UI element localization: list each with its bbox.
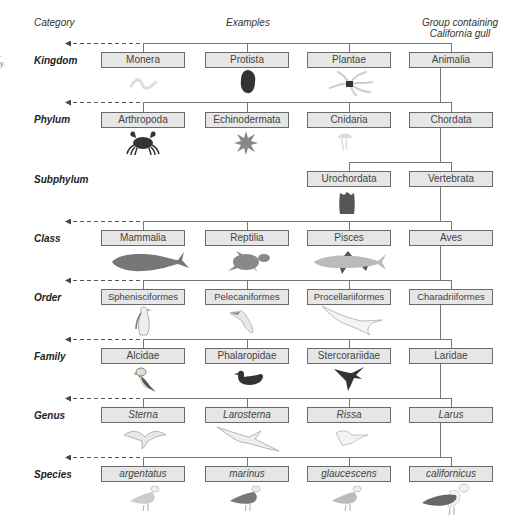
- california-gull-icon: [420, 481, 474, 517]
- skua-icon: [332, 363, 366, 393]
- starfish-icon: [233, 130, 259, 156]
- rank-subphylum: Subphylum: [34, 174, 88, 185]
- plant-icon: [326, 68, 376, 96]
- whale-icon: [110, 248, 190, 274]
- taxon-box-charadriiformes: Charadriiformes: [409, 289, 493, 305]
- taxon-box-laridae: Laridae: [409, 348, 493, 364]
- rank-class: Class: [34, 233, 61, 244]
- taxon-box-mammalia: Mammalia: [101, 230, 185, 246]
- black-backed-gull-icon: [228, 483, 264, 513]
- rank-genus: Genus: [34, 410, 65, 421]
- glaucous-winged-gull-icon: [330, 483, 364, 513]
- taxon-box-sphenisciformes: Sphenisciformes: [101, 289, 185, 305]
- protist-icon: [238, 68, 258, 96]
- pelican-icon: [226, 305, 262, 335]
- taxon-box-larosterna: Larosterna: [205, 407, 289, 423]
- bacterium-icon: [128, 76, 160, 94]
- taxon-box-monera: Monera: [101, 52, 185, 68]
- taxon-box-reptilia: Reptilia: [205, 230, 289, 246]
- taxon-box-protista: Protista: [205, 52, 289, 68]
- taxon-box-stercorariidae: Stercorariidae: [307, 348, 391, 364]
- taxon-box-vertebrata: Vertebrata: [409, 171, 493, 187]
- taxon-box-larus: Larus: [409, 407, 493, 423]
- taxon-box-plantae: Plantae: [307, 52, 391, 68]
- taxon-box-pisces: Pisces: [307, 230, 391, 246]
- taxon-box-cnidaria: Cnidaria: [307, 112, 391, 128]
- taxon-box-californicus: californicus: [409, 466, 493, 482]
- fish-icon: [312, 248, 388, 276]
- taxon-box-aves: Aves: [409, 230, 493, 246]
- herring-gull-icon: [128, 483, 162, 513]
- taxon-box-sterna: Sterna: [101, 407, 185, 423]
- turtle-icon: [226, 247, 272, 273]
- crab-icon: [124, 130, 162, 156]
- albatross-icon: [318, 303, 384, 337]
- rank-species: Species: [34, 469, 72, 480]
- taxon-box-echinodermata: Echinodermata: [205, 112, 289, 128]
- kittiwake-icon: [332, 425, 370, 449]
- puffin-icon: [132, 366, 158, 394]
- taxon-box-glaucescens: glaucescens: [307, 466, 391, 482]
- rank-kingdom: Kingdom: [34, 55, 77, 66]
- tunicate-icon: [337, 190, 357, 216]
- taxon-box-pelecaniformes: Pelecaniformes: [205, 289, 289, 305]
- rank-order: Order: [34, 292, 61, 303]
- taxon-box-rissa: Rissa: [307, 407, 391, 423]
- taxon-box-argentatus: argentatus: [101, 466, 185, 482]
- taxon-box-arthropoda: Arthropoda: [101, 112, 185, 128]
- taxon-box-chordata: Chordata: [409, 112, 493, 128]
- rank-phylum: Phylum: [34, 114, 70, 125]
- inca-tern-icon: [215, 423, 281, 453]
- phalarope-icon: [234, 368, 266, 388]
- rank-family: Family: [34, 351, 66, 362]
- taxon-box-marinus: marinus: [205, 466, 289, 482]
- jellyfish-icon: [335, 130, 355, 152]
- tern-icon: [122, 425, 168, 451]
- taxon-box-animalia: Animalia: [409, 52, 493, 68]
- taxon-box-urochordata: Urochordata: [307, 171, 391, 187]
- taxon-box-phalaropidae: Phalaropidae: [205, 348, 289, 364]
- taxon-box-alcidae: Alcidae: [101, 348, 185, 364]
- penguin-icon: [132, 305, 156, 337]
